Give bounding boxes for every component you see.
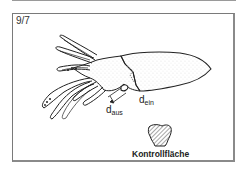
control-area-label: Kontrollfläche bbox=[132, 149, 189, 159]
d-aus-label: daus bbox=[106, 104, 123, 116]
control-area-icon bbox=[148, 125, 171, 146]
d-ein-label: dein bbox=[139, 94, 154, 106]
squid-diagram bbox=[0, 0, 242, 171]
